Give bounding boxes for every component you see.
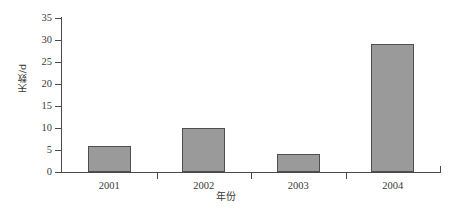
y-axis-tick-label: 15 xyxy=(10,101,52,111)
y-axis-tick xyxy=(55,150,61,151)
y-axis-tick xyxy=(55,128,61,129)
y-axis-tick-label: 0 xyxy=(10,167,52,177)
x-axis-tick xyxy=(157,173,158,179)
y-axis-tick xyxy=(55,40,61,41)
y-axis-tick-label: 5 xyxy=(10,145,52,155)
y-axis-tick xyxy=(55,172,61,173)
x-axis-end-tick xyxy=(440,166,441,173)
y-axis-title: 天数/d xyxy=(17,64,31,93)
y-axis-tick-label: 30 xyxy=(10,35,52,45)
y-axis-tick-label: 35 xyxy=(10,13,52,23)
y-axis-tick-label: 10 xyxy=(10,123,52,133)
y-axis-tick xyxy=(55,18,61,19)
x-axis-tick xyxy=(346,173,347,179)
y-axis-tick xyxy=(55,84,61,85)
y-axis-tick xyxy=(55,106,61,107)
bar-chart-figure: 05101520253035 2001200220032004 天数/d 年份 xyxy=(0,0,451,216)
plot-area xyxy=(62,18,440,172)
bar xyxy=(88,146,131,172)
x-axis-title: 年份 xyxy=(0,191,451,203)
y-axis-tick xyxy=(55,62,61,63)
x-axis-tick xyxy=(251,173,252,179)
bar xyxy=(371,44,414,172)
bar xyxy=(277,154,320,172)
bar xyxy=(182,128,225,172)
